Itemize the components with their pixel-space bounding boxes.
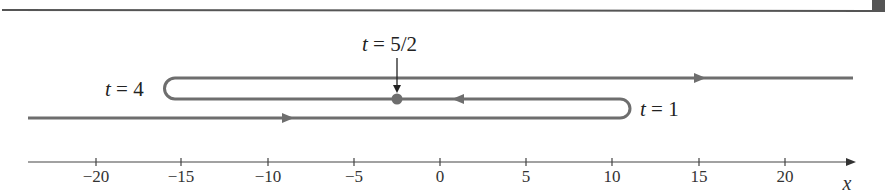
tick-label: 15 <box>691 167 708 187</box>
tick-label: −15 <box>168 167 195 187</box>
x-axis-arrow-icon <box>846 158 856 166</box>
tick-label: 5 <box>522 167 531 187</box>
label-t-five-halves: t = 5/2 <box>362 32 417 57</box>
tick-label: −10 <box>255 167 282 187</box>
corner-block <box>872 0 885 12</box>
motion-path <box>28 78 853 118</box>
tick-label: −20 <box>83 167 110 187</box>
pointer-arrow-head-icon <box>393 85 401 93</box>
top-rule <box>2 10 872 11</box>
label-t-one: t = 1 <box>640 97 679 122</box>
tick-label: 10 <box>604 167 621 187</box>
arrow-left-middle-icon <box>452 94 464 104</box>
arrow-right-top-icon <box>694 73 706 83</box>
tick-label: 0 <box>436 167 445 187</box>
label-t-four: t = 4 <box>105 77 144 102</box>
tick-label: 20 <box>777 167 794 187</box>
x-axis-label: x <box>843 172 852 195</box>
position-dot <box>392 94 403 105</box>
arrow-right-bottom-icon <box>282 113 294 123</box>
tick-label: −5 <box>345 167 363 187</box>
